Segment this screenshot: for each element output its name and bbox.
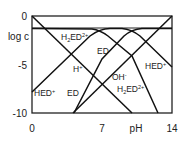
y-tick-minus10: -10 (13, 108, 28, 119)
x-tick-0: 0 (29, 123, 35, 134)
label-hed-left: HED+ (34, 88, 55, 98)
x-tick-7: 7 (99, 123, 105, 134)
label-oh-minus: OH- (112, 72, 127, 82)
y-tick-0: 0 (21, 11, 27, 22)
label-hed-right: HED+ (145, 61, 166, 71)
x-tick-14: 14 (166, 123, 178, 134)
label-ed-bottom: ED (67, 88, 79, 98)
y-tick-minus5: -5 (18, 60, 27, 71)
label-h-plus: H+ (73, 64, 82, 74)
label-ed-top: ED (97, 46, 109, 56)
label-h2ed2-bottom: H2ED2+ (117, 84, 144, 95)
y-axis-label: log c (8, 31, 29, 42)
x-axis-label: pH (130, 123, 143, 134)
h2ed2-curve (32, 29, 158, 114)
speciation-chart: 0 -5 -10 log c 0 7 14 pH H2ED2+ ED H+ OH… (0, 0, 186, 143)
